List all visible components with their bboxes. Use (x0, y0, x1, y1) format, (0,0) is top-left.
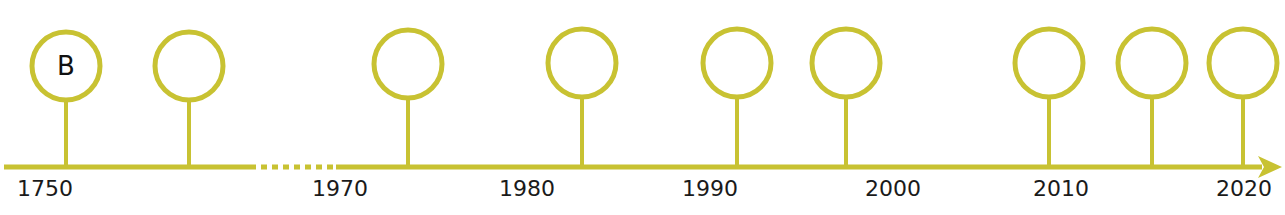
marker-circle (1118, 29, 1186, 97)
year-label: 2010 (1033, 176, 1089, 201)
year-label: 1990 (682, 176, 738, 201)
marker-circle (812, 29, 880, 97)
year-label: 2000 (865, 176, 921, 201)
marker-circle (1015, 29, 1083, 97)
year-label: 1980 (499, 176, 555, 201)
year-label: 1750 (17, 176, 73, 201)
year-label: 1970 (312, 176, 368, 201)
marker-letter: B (57, 51, 75, 81)
year-label: 2020 (1216, 176, 1272, 201)
marker-circle (1209, 29, 1277, 97)
marker-circle (155, 32, 223, 100)
timeline: 1750197019801990200020102020 B (0, 0, 1285, 215)
timeline-graphic (0, 0, 1285, 215)
marker-circle (703, 29, 771, 97)
marker-circle (548, 29, 616, 97)
marker-circle (374, 30, 442, 98)
